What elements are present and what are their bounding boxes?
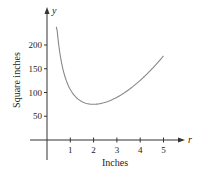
x-var-label: r <box>188 134 192 145</box>
x-tick-label: 4 <box>138 145 143 155</box>
x-axis-arrow-icon <box>178 138 185 143</box>
x-tick-label: 2 <box>91 145 96 155</box>
x-tick-label: 3 <box>115 145 120 155</box>
y-axis-title: Square inches <box>11 52 22 108</box>
x-tick-label: 1 <box>68 145 73 155</box>
chart-svg: 12345 50100150200 y r Inches Square inch… <box>0 0 203 177</box>
y-tick-label: 50 <box>33 111 43 121</box>
y-tick-label: 100 <box>29 88 43 98</box>
y-tick-label: 150 <box>29 64 43 74</box>
x-axis-title: Inches <box>102 157 128 168</box>
data-curve <box>56 27 163 104</box>
y-tick-label: 200 <box>29 40 43 50</box>
chart: 12345 50100150200 y r Inches Square inch… <box>0 0 203 177</box>
y-var-label: y <box>51 5 57 16</box>
y-axis-arrow-icon <box>45 7 50 14</box>
y-ticks: 50100150200 <box>29 40 48 121</box>
x-tick-label: 5 <box>161 145 166 155</box>
